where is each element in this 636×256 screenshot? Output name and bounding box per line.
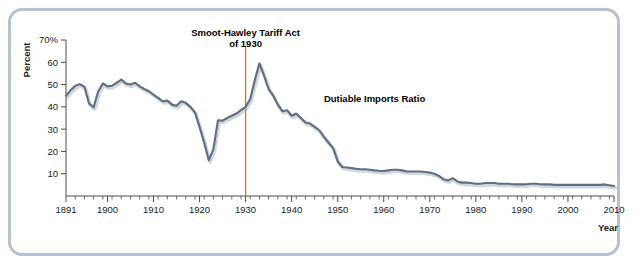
x-tick-label: 1920 — [189, 204, 210, 215]
x-axis-minor-tick-group — [75, 196, 609, 200]
x-tick-label: 1970 — [419, 204, 440, 215]
y-axis-tick-group: 70%605040302010 — [39, 34, 66, 179]
x-tick-label: 1980 — [465, 204, 486, 215]
y-axis-title: Percent — [21, 42, 32, 78]
y-tick-label: 10 — [47, 168, 58, 179]
smoot-hawley-annotation-line1: Smoot-Hawley Tariff Act — [191, 27, 301, 38]
smoot-hawley-annotation-line2: of 1930 — [229, 38, 262, 49]
x-tick-label: 2000 — [557, 204, 578, 215]
y-tick-label: 40 — [47, 101, 58, 112]
x-axis-title: Year — [598, 222, 618, 233]
series-inline-label: Dutiable Imports Ratio — [324, 93, 426, 104]
x-tick-label: 1950 — [327, 204, 348, 215]
x-tick-label: 1940 — [281, 204, 302, 215]
x-tick-label: 1930 — [235, 204, 256, 215]
x-tick-label: 1900 — [97, 204, 118, 215]
y-tick-label: 50 — [47, 79, 58, 90]
x-tick-label: 1990 — [511, 204, 532, 215]
series-line-dutiable-imports-ratio — [66, 63, 614, 186]
y-tick-label: 30 — [47, 124, 58, 135]
y-tick-label: 60 — [47, 57, 58, 68]
x-tick-label: 1891 — [55, 204, 76, 215]
y-tick-label: 20 — [47, 146, 58, 157]
series-line-shadow — [67, 65, 615, 188]
y-tick-label: 70% — [39, 34, 59, 45]
x-tick-label: 1960 — [373, 204, 394, 215]
x-tick-label: 2010 — [603, 204, 624, 215]
x-axis-tick-group: 1891190019101920193019401950196019701980… — [55, 196, 624, 215]
x-tick-label: 1910 — [143, 204, 164, 215]
